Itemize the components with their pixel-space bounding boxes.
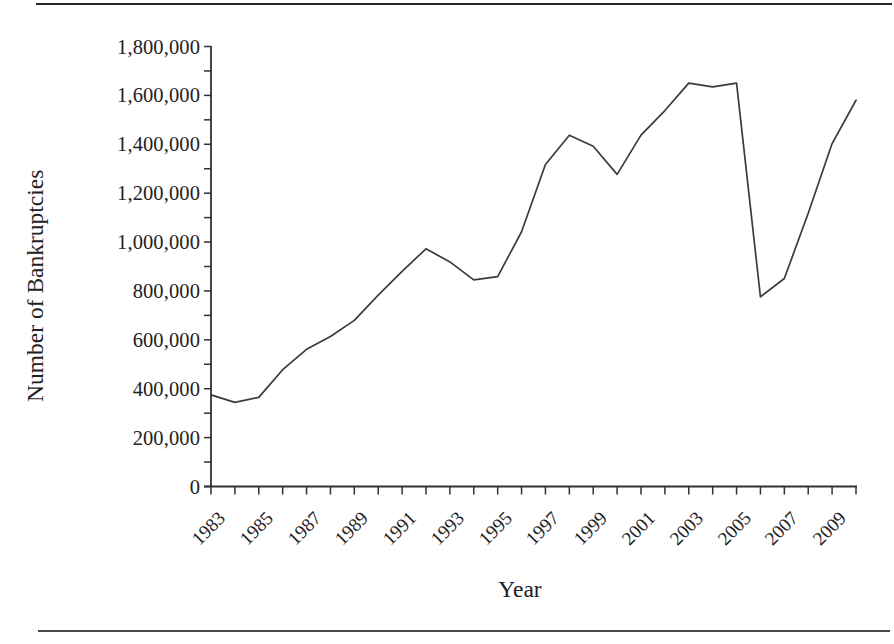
- y-axis-ticks: [204, 47, 211, 487]
- y-axis-tick-label: 800,000: [60, 281, 200, 302]
- y-axis-tick-label: 1,800,000: [60, 37, 200, 58]
- axis-lines: [204, 46, 857, 487]
- y-axis-tick-label: 1,200,000: [60, 183, 200, 204]
- x-axis-ticks: [211, 487, 856, 495]
- y-axis-tick-label: 1,600,000: [60, 85, 200, 106]
- y-axis-title: Number of Bankruptcies: [24, 136, 48, 436]
- x-axis-title: Year: [330, 578, 710, 602]
- y-axis-tick-label: 1,000,000: [60, 232, 200, 253]
- chart-figure: 1,800,0001,600,0001,400,0001,200,0001,00…: [0, 0, 894, 644]
- y-axis-tick-label: 0: [60, 477, 200, 498]
- y-axis-tick-label: 600,000: [60, 330, 200, 351]
- data-series-line: [211, 83, 856, 402]
- y-axis-tick-label: 200,000: [60, 428, 200, 449]
- y-axis-tick-label: 400,000: [60, 379, 200, 400]
- y-axis-tick-label: 1,400,000: [60, 134, 200, 155]
